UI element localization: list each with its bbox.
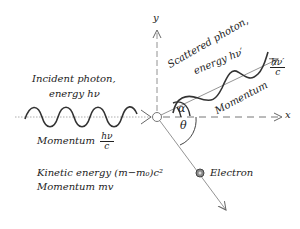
incident-momentum-denominator: c — [104, 142, 109, 151]
electron-direction-line — [160, 121, 226, 210]
kinetic-energy-label: Kinetic energy (m−m₀)c² — [37, 168, 163, 178]
x-axis-label: x — [285, 110, 291, 120]
scattered-momentum-frac: hν′ c — [270, 58, 285, 77]
incident-photon-label: Incident photon, — [32, 74, 116, 84]
theta-label: θ — [180, 120, 187, 131]
y-axis-label: y — [153, 13, 159, 23]
origin-point — [153, 113, 162, 122]
scattered-momentum-denominator: c — [275, 68, 280, 77]
incident-momentum-label: Momentum hν c — [37, 132, 114, 151]
diagram-graphics — [0, 0, 300, 229]
electron-momentum-label: Momentum mv — [37, 182, 113, 192]
compton-diagram: y x Incident photon, energy hν Momentum … — [0, 0, 300, 229]
scattered-momentum-fraction: hν′ c — [268, 58, 285, 77]
incident-momentum-word: Momentum — [37, 135, 95, 146]
incident-momentum-fraction: hν c — [100, 132, 113, 151]
electron-label: Electron — [210, 168, 253, 178]
incident-energy-label: energy hν — [49, 89, 100, 99]
alpha-label: α — [178, 103, 185, 114]
electron-core — [199, 172, 202, 175]
